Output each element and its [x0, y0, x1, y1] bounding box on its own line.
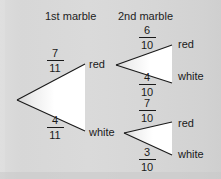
leaf-label-red-red: red	[178, 38, 194, 50]
fraction-bar	[139, 84, 156, 85]
column-header-second-marble: 2nd marble	[118, 10, 173, 22]
fraction-denominator: 10	[136, 39, 158, 51]
fraction-numerator: 4	[44, 114, 66, 126]
column-header-first-marble: 1st marble	[45, 10, 96, 22]
fraction-denominator: 10	[136, 112, 158, 124]
fraction-numerator: 3	[136, 146, 158, 158]
probability-fraction-4-10: 4 10	[136, 71, 158, 98]
leaf-label-white-red: red	[178, 117, 194, 129]
probability-fraction-4-11: 4 11	[44, 114, 66, 141]
fraction-denominator: 11	[44, 62, 66, 74]
fraction-numerator: 7	[136, 97, 158, 109]
fraction-denominator: 10	[136, 161, 158, 173]
fraction-numerator: 4	[136, 71, 158, 83]
probability-tree-diagram: 1st marble 2nd marble 7 11 4 11 red whit…	[0, 0, 221, 179]
fraction-bar	[139, 159, 156, 160]
probability-fraction-7-11: 7 11	[44, 47, 66, 74]
probability-fraction-7-10: 7 10	[136, 97, 158, 124]
leaf-label-red-white: white	[178, 70, 204, 82]
leaf-label-white-white: white	[178, 148, 204, 160]
fraction-bar	[47, 127, 64, 128]
node-label-red: red	[89, 58, 105, 70]
fraction-bar	[47, 60, 64, 61]
fraction-bar	[139, 110, 156, 111]
probability-fraction-3-10: 3 10	[136, 146, 158, 173]
fraction-denominator: 11	[44, 129, 66, 141]
fraction-bar	[139, 37, 156, 38]
probability-fraction-6-10: 6 10	[136, 24, 158, 51]
fraction-numerator: 6	[136, 24, 158, 36]
fraction-numerator: 7	[44, 47, 66, 59]
node-label-white: white	[89, 126, 115, 138]
